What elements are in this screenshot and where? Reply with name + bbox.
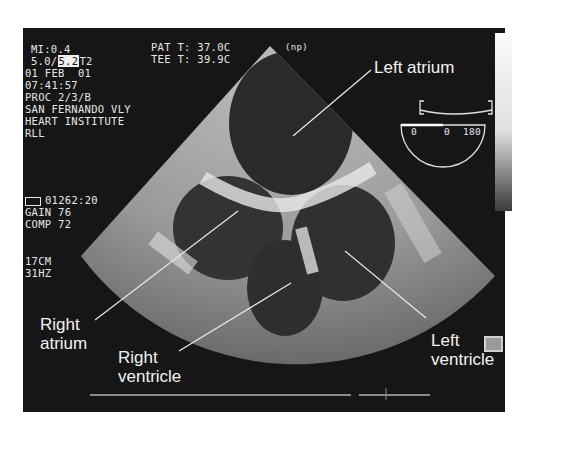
probe-mark: (np): [285, 42, 308, 54]
proc-readout: PROC 2/3/B: [25, 92, 91, 104]
time-readout: 07:41:57: [25, 80, 78, 92]
counter-value: 01262:20: [45, 194, 98, 206]
site-line-2: HEART INSTITUTE: [25, 116, 124, 128]
angle-label-right: 180: [463, 126, 481, 138]
label-right-atrium-line2: atrium: [40, 334, 87, 353]
grayscale-bar: [495, 33, 512, 211]
date-readout: 01 FEB 01: [25, 68, 91, 80]
mi-readout: MI:0.4: [31, 44, 71, 56]
ultrasound-frame: MI:0.4 5.0/5.2T2 01 FEB 01 07:41:57 PROC…: [23, 28, 505, 412]
freeze-indicator: [484, 336, 503, 352]
gain-readout: GAIN 76: [25, 207, 71, 219]
site-line-1: SAN FERNANDO VLY: [25, 104, 131, 116]
counter-readout: 01262:20: [25, 195, 98, 207]
frequency-highlight: 5.2: [58, 55, 80, 67]
angle-label-left: 0: [411, 126, 417, 138]
comp-readout: COMP 72: [25, 219, 71, 231]
angle-label-mid: 0: [444, 126, 450, 138]
label-left-atrium: Left atrium: [374, 58, 454, 77]
label-right-atrium-line1: Right: [40, 315, 80, 334]
label-right-ventricle-line1: Right: [118, 348, 158, 367]
code-readout: RLL: [25, 128, 45, 140]
left-atrium-chamber: [229, 51, 353, 195]
angle-bracket: [420, 101, 492, 114]
label-right-ventricle-line2: ventricle: [118, 367, 181, 386]
frequency-readout: 5.0/5.2T2: [31, 56, 93, 68]
frame-rate-readout: 31HZ: [25, 268, 52, 280]
patient-temp: PAT T: 37.0C: [151, 42, 230, 54]
frequency-suffix: T2: [79, 55, 92, 67]
tape-icon: [25, 197, 41, 206]
depth-readout: 17CM: [25, 256, 52, 268]
frequency-prefix: 5.0/: [31, 55, 58, 67]
probe-temp: TEE T: 39.9C: [151, 54, 230, 66]
